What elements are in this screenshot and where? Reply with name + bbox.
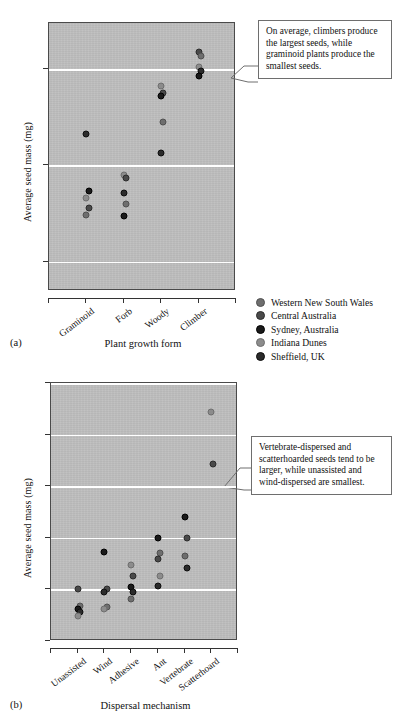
panel-a-tag: (a) bbox=[10, 337, 22, 348]
x-axis-tick bbox=[157, 648, 158, 653]
panel-b-y-axis-title: Average seed mass (mg) bbox=[22, 478, 33, 578]
legend-swatch-icon bbox=[256, 338, 265, 347]
y-axis-tick bbox=[45, 434, 50, 435]
panel-b: 10410310210110010−1 UnassistedWindAdhesi… bbox=[0, 368, 400, 725]
x-axis-tick bbox=[48, 298, 49, 303]
legend: Western New South WalesCentral Australia… bbox=[256, 296, 373, 364]
panel-a-plot-area bbox=[48, 22, 235, 290]
data-point bbox=[157, 573, 164, 580]
data-point bbox=[120, 189, 127, 196]
legend-swatch-icon bbox=[256, 325, 265, 334]
x-axis-tick bbox=[77, 648, 78, 653]
legend-swatch-icon bbox=[256, 311, 265, 320]
gridline bbox=[49, 165, 234, 167]
data-point bbox=[101, 605, 108, 612]
data-point bbox=[74, 612, 81, 619]
x-axis-tick bbox=[130, 648, 131, 653]
y-axis-tick bbox=[43, 68, 48, 69]
panel-a-x-axis-title: Plant growth form bbox=[78, 338, 208, 349]
x-axis-tick bbox=[210, 648, 211, 653]
data-point bbox=[101, 548, 108, 555]
gridline bbox=[51, 486, 236, 488]
x-axis-tick-label: Climber bbox=[178, 306, 209, 333]
data-point bbox=[197, 53, 204, 60]
data-point bbox=[181, 514, 188, 521]
x-axis-tick bbox=[103, 648, 104, 653]
y-axis-tick bbox=[45, 382, 50, 383]
data-point bbox=[83, 195, 90, 202]
data-point bbox=[183, 564, 190, 571]
x-axis-tick-label: Woody bbox=[143, 306, 171, 330]
data-point bbox=[128, 596, 135, 603]
y-axis-tick bbox=[45, 537, 50, 538]
data-point bbox=[83, 131, 90, 138]
legend-item[interactable]: Sheffield, UK bbox=[256, 350, 373, 363]
y-axis-tick bbox=[45, 588, 50, 589]
legend-item-label: Sheffield, UK bbox=[271, 351, 325, 362]
y-axis-tick bbox=[43, 164, 48, 165]
x-axis-tick bbox=[50, 648, 51, 653]
data-point bbox=[158, 93, 165, 100]
data-point bbox=[210, 460, 217, 467]
gridline bbox=[51, 538, 236, 540]
x-axis-line bbox=[50, 648, 237, 649]
x-axis-tick bbox=[198, 298, 199, 303]
legend-item[interactable]: Indiana Dunes bbox=[256, 337, 373, 350]
panel-b-tag: (b) bbox=[10, 699, 22, 710]
data-point bbox=[154, 583, 161, 590]
data-point bbox=[74, 586, 81, 593]
gridline bbox=[49, 69, 234, 71]
data-point bbox=[181, 553, 188, 560]
data-point bbox=[183, 534, 190, 541]
x-axis-tick bbox=[235, 298, 236, 303]
x-axis-tick bbox=[85, 298, 86, 303]
legend-item-label: Western New South Wales bbox=[271, 297, 373, 308]
x-axis-tick bbox=[160, 298, 161, 303]
y-axis-tick bbox=[45, 485, 50, 486]
x-axis-tick bbox=[184, 648, 185, 653]
data-point bbox=[130, 573, 137, 580]
panel-a: 1010.1 GraminoidForbWoodyClimber Average… bbox=[0, 0, 400, 362]
data-point bbox=[128, 561, 135, 568]
legend-item-label: Indiana Dunes bbox=[271, 337, 327, 348]
legend-swatch-icon bbox=[256, 352, 265, 361]
data-point bbox=[83, 211, 90, 218]
legend-item[interactable]: Sydney, Australia bbox=[256, 323, 373, 336]
legend-item-label: Sydney, Australia bbox=[271, 324, 339, 335]
x-axis-tick-label: Unassisted bbox=[49, 656, 88, 689]
data-point bbox=[123, 175, 130, 182]
figure-root: 1010.1 GraminoidForbWoodyClimber Average… bbox=[0, 0, 400, 725]
gridline bbox=[51, 383, 236, 385]
x-axis-tick bbox=[123, 298, 124, 303]
legend-item[interactable]: Western New South Wales bbox=[256, 296, 373, 309]
gridline bbox=[49, 262, 234, 264]
x-axis-tick-label: Graminoid bbox=[58, 306, 97, 339]
data-point bbox=[158, 149, 165, 156]
data-point bbox=[101, 589, 108, 596]
x-axis-line bbox=[48, 298, 235, 299]
data-point bbox=[85, 187, 92, 194]
legend-item-label: Central Australia bbox=[271, 310, 336, 321]
data-point bbox=[154, 534, 161, 541]
data-point bbox=[120, 212, 127, 219]
y-axis-tick bbox=[45, 640, 50, 641]
data-point bbox=[130, 588, 137, 595]
x-axis-tick-label: Forb bbox=[113, 306, 133, 325]
panel-b-annotation: Vertebrate-dispersed and scatterhoarded … bbox=[251, 436, 392, 495]
legend-item[interactable]: Central Australia bbox=[256, 310, 373, 323]
data-point bbox=[160, 119, 167, 126]
panel-b-x-axis-title: Dispersal mechanism bbox=[78, 700, 213, 711]
data-point bbox=[195, 73, 202, 80]
data-point bbox=[154, 555, 161, 562]
panel-a-y-axis-title: Average seed mass (mg) bbox=[22, 122, 33, 222]
data-point bbox=[123, 200, 130, 207]
panel-a-annotation: On average, climbers produce the largest… bbox=[258, 20, 392, 79]
data-point bbox=[208, 409, 215, 416]
panel-b-plot-area bbox=[50, 382, 237, 640]
x-axis-tick bbox=[237, 648, 238, 653]
x-axis-tick-label: Ant bbox=[150, 656, 167, 673]
legend-swatch-icon bbox=[256, 298, 265, 307]
gridline bbox=[51, 435, 236, 437]
y-axis-tick bbox=[43, 261, 48, 262]
